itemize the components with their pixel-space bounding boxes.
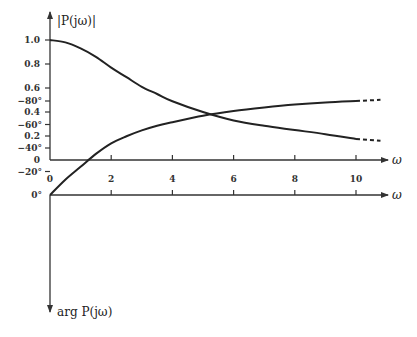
y-tick-label: −20°: [17, 167, 42, 177]
phase-axis-label: arg P(jω): [57, 305, 112, 319]
x-tick-label: 6: [230, 174, 236, 184]
magnitude-omega-label: ω: [392, 153, 402, 167]
y-tick-label: −60°: [17, 120, 42, 130]
y-tick-label: 0.8: [24, 59, 40, 69]
bode-plot-figure: 00.20.40.60.81.0 0246810 |P(jω)| ω 0°−20…: [0, 0, 417, 337]
y-tick-label: 0.6: [24, 83, 40, 93]
phase-x-ticks: [111, 190, 356, 195]
x-tick-label: 0: [47, 174, 53, 184]
x-tick-label: 8: [292, 174, 298, 184]
phase-plot: 0°−20°−40°−60°−80° arg P(jω) ω: [17, 96, 402, 319]
y-tick-label: −80°: [17, 96, 42, 106]
y-tick-label: 0.2: [24, 131, 40, 141]
magnitude-curve: [50, 40, 356, 139]
y-tick-label: 0°: [31, 190, 42, 200]
phase-omega-label: ω: [392, 188, 402, 202]
y-tick-label: −40°: [17, 143, 42, 153]
phase-curve: [50, 101, 356, 195]
y-tick-label: 0: [34, 155, 40, 165]
x-tick-label: 4: [169, 174, 175, 184]
x-tick-label: 10: [350, 174, 363, 184]
phase-curve-dashed-extension: [356, 100, 380, 101]
y-tick-label: 1.0: [24, 35, 40, 45]
magnitude-curve-dashed-extension: [356, 139, 380, 141]
magnitude-axis-label: |P(jω)|: [57, 14, 96, 28]
bode-plot-svg: 00.20.40.60.81.0 0246810 |P(jω)| ω 0°−20…: [0, 0, 417, 337]
y-tick-label: 0.4: [24, 107, 40, 117]
x-tick-label: 2: [108, 174, 114, 184]
magnitude-plot: 00.20.40.60.81.0 0246810 |P(jω)| ω: [24, 12, 402, 184]
